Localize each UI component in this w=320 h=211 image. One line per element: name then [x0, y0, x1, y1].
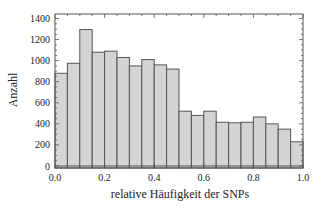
histogram-bar [117, 57, 129, 168]
x-tick-label: 0.4 [148, 172, 161, 183]
histogram-bar [216, 122, 228, 168]
histogram-bar [55, 73, 67, 168]
y-tick-label: 0 [45, 161, 50, 172]
x-tick-label: 0.0 [49, 172, 62, 183]
x-tick-label: 0.2 [98, 172, 111, 183]
histogram-bar [154, 65, 166, 168]
y-tick-label: 400 [35, 118, 50, 129]
histogram-bar [179, 111, 191, 168]
y-tick-label: 600 [35, 97, 50, 108]
histogram-bar [105, 51, 117, 168]
y-tick-label: 1400 [30, 13, 50, 24]
x-axis-tick-labels: 0.00.20.40.60.81.0 [49, 172, 310, 183]
x-tick-label: 0.6 [198, 172, 211, 183]
y-tick-label: 1000 [30, 55, 50, 66]
histogram-bar [291, 142, 303, 168]
y-tick-label: 200 [35, 139, 50, 150]
histogram-bar [229, 123, 241, 168]
histogram-bar [67, 63, 79, 168]
y-tick-label: 800 [35, 76, 50, 87]
histogram-bar [92, 52, 104, 168]
histogram-bar [266, 124, 278, 168]
y-axis-title: Anzahl [6, 72, 20, 107]
histogram-bar [167, 69, 179, 168]
histogram-bar [80, 30, 92, 168]
histogram-bar [142, 60, 154, 168]
histogram-bar [253, 117, 265, 168]
x-tick-label: 0.8 [247, 172, 260, 183]
histogram-bars [55, 30, 303, 168]
histogram-bar [241, 122, 253, 168]
x-tick-label: 1.0 [297, 172, 310, 183]
histogram-chart: 0200400600800100012001400 0.00.20.40.60.… [0, 0, 320, 211]
histogram-bar [204, 111, 216, 168]
y-axis-tick-labels: 0200400600800100012001400 [30, 13, 50, 172]
histogram-bar [278, 129, 290, 168]
y-tick-label: 1200 [30, 34, 50, 45]
histogram-bar [191, 115, 203, 168]
histogram-bar [129, 66, 141, 168]
x-axis-title: relative Häufigkeit der SNPs [111, 187, 250, 201]
